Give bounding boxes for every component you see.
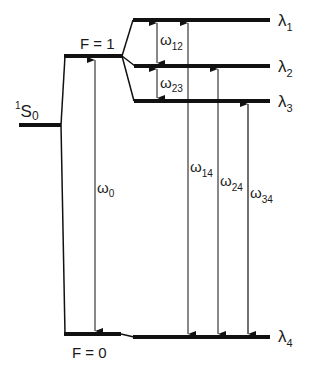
w34-label: ω34 xyxy=(250,184,273,205)
w24-label: ω24 xyxy=(220,172,243,193)
f0-connector xyxy=(121,334,134,337)
f1-label: F = 1 xyxy=(80,35,115,52)
w0-label: ω0 xyxy=(97,179,115,199)
lambda4-label: λ4 xyxy=(278,327,293,349)
w12-label: ω12 xyxy=(160,31,183,52)
connector-f1 xyxy=(61,56,65,125)
ground-state-label: 1S0 xyxy=(15,100,39,123)
energy-level-diagram: 1S0 F = 1 F = 0 λ1 λ2 λ3 λ4 ω0 ω12 ω23 ω… xyxy=(0,0,314,373)
w14-label: ω14 xyxy=(190,158,213,179)
connector-f0 xyxy=(61,125,65,334)
w23-label: ω23 xyxy=(160,74,183,94)
lambda1-label: λ1 xyxy=(278,11,293,33)
lambda3-label: λ3 xyxy=(278,92,293,114)
lambda2-label: λ2 xyxy=(278,57,293,79)
branch-lambda1 xyxy=(122,20,133,56)
branch-lambda3 xyxy=(122,56,134,101)
f0-label: F = 0 xyxy=(72,344,107,361)
